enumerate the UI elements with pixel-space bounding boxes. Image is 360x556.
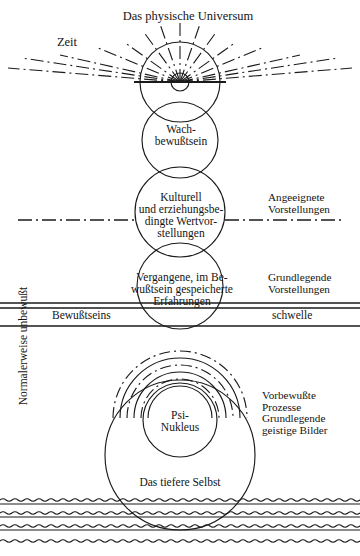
deep-unconscious-waves <box>0 499 360 542</box>
past-experiences-circle <box>137 243 223 329</box>
preconscious-arcs <box>113 351 247 418</box>
diagram-page: Das physische Universum Zeit Wach- bewuß… <box>0 0 360 556</box>
consciousness-threshold-band <box>0 303 360 326</box>
deeper-self-circle <box>105 380 255 530</box>
psi-nucleus-circle <box>143 383 217 457</box>
consciousness-model-diagram <box>0 0 360 556</box>
